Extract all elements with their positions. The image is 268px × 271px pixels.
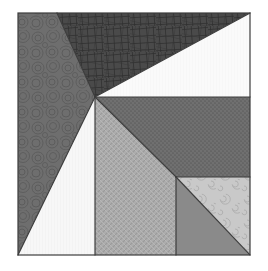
geometric-pattern-svg (0, 0, 268, 271)
figure-canvas (0, 0, 268, 271)
